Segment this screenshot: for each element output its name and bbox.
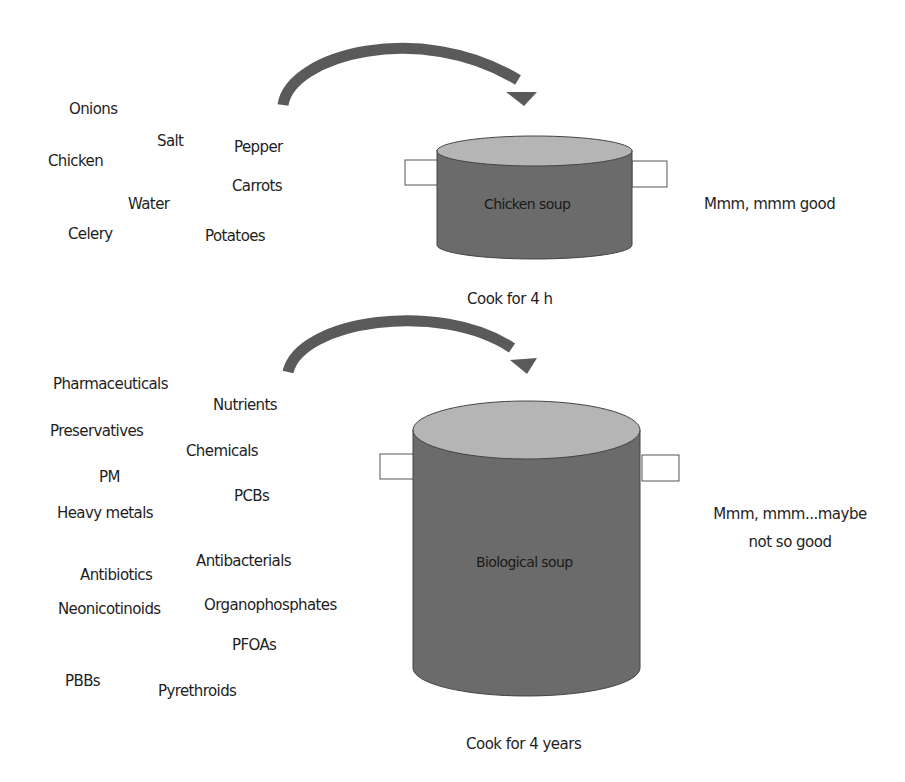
- ingredient-label: Potatoes: [205, 227, 265, 245]
- ingredient-label: PM: [99, 468, 120, 486]
- ingredient-label: Antibacterials: [196, 552, 291, 570]
- arrow-icon-top: [283, 44, 537, 106]
- ingredient-label: Organophosphates: [204, 596, 337, 614]
- ingredient-label: Carrots: [232, 177, 282, 195]
- ingredient-label: Onions: [69, 100, 117, 118]
- verdict-top: Mmm, mmm good: [704, 190, 835, 218]
- ingredient-label: Pharmaceuticals: [53, 375, 168, 393]
- ingredient-label: PFOAs: [232, 636, 276, 654]
- ingredient-label: PBBs: [65, 672, 100, 690]
- ingredient-label: Chicken: [48, 152, 103, 170]
- arrow-icon-bottom: [288, 321, 537, 374]
- ingredient-label: Chemicals: [186, 442, 258, 460]
- ingredient-label: Pyrethroids: [158, 682, 236, 700]
- ingredient-label: Celery: [68, 225, 113, 243]
- verdict-bottom-line1: Mmm, mmm...maybe: [700, 500, 880, 528]
- verdict-bottom-line2: not so good: [700, 528, 880, 556]
- pot-label-chicken-soup: Chicken soup: [484, 196, 570, 212]
- ingredient-label: Salt: [157, 132, 183, 150]
- ingredient-label: Pepper: [234, 138, 283, 156]
- ingredient-label: Antibiotics: [80, 566, 152, 584]
- ingredient-label: Neonicotinoids: [58, 600, 161, 618]
- ingredient-label: Water: [128, 195, 169, 213]
- ingredient-label: Preservatives: [50, 422, 143, 440]
- pot-label-biological-soup: Biological soup: [476, 554, 573, 570]
- cook-time-bottom: Cook for 4 years: [466, 735, 581, 753]
- ingredient-label: Heavy metals: [57, 504, 153, 522]
- ingredient-label: Nutrients: [213, 396, 277, 414]
- cook-time-top: Cook for 4 h: [467, 290, 553, 308]
- verdict-bottom: Mmm, mmm...maybe not so good: [700, 500, 880, 556]
- pot-bottom: [380, 401, 679, 696]
- ingredient-label: PCBs: [234, 487, 269, 505]
